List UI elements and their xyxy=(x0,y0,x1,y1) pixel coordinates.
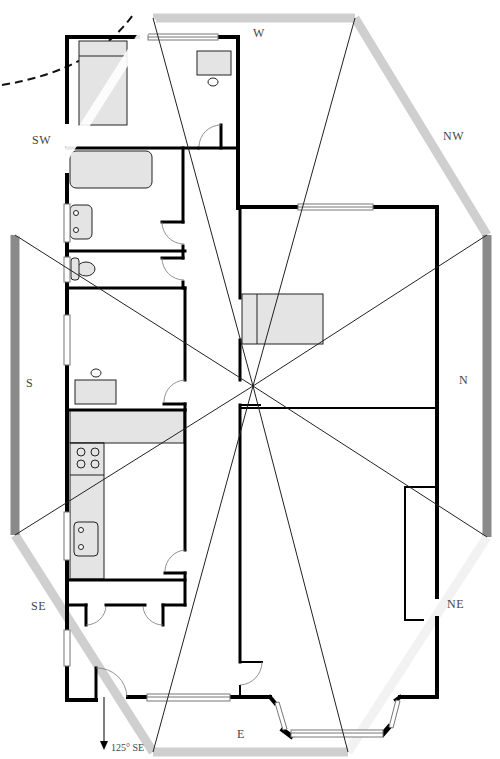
sector-line xyxy=(15,235,253,386)
door-swing xyxy=(162,258,184,280)
chair xyxy=(208,78,218,86)
arrow-down-icon xyxy=(100,741,108,750)
bagua-edge-ne xyxy=(348,537,487,752)
window-bathroom xyxy=(64,204,70,242)
orientation-arrow xyxy=(100,697,108,750)
door-swing xyxy=(162,222,184,244)
direction-label-ne: NE xyxy=(447,597,464,612)
hob-ring xyxy=(77,448,85,456)
orientation-note: 125° SE xyxy=(111,742,144,753)
toilet xyxy=(77,262,95,276)
bed-single xyxy=(79,41,127,125)
sink-tap xyxy=(79,545,84,550)
chair-small xyxy=(91,369,101,377)
toilet-cistern xyxy=(71,258,79,280)
washbasin-bathroom xyxy=(70,205,92,239)
desk xyxy=(197,51,231,75)
bagua-edge-nw xyxy=(355,18,487,235)
hob-ring xyxy=(91,448,99,456)
door-swing xyxy=(164,380,185,402)
door-swing xyxy=(143,606,163,625)
kitchen-counter-top xyxy=(70,410,184,443)
direction-label-e: E xyxy=(237,727,245,742)
door-swing xyxy=(86,606,106,625)
bathtub xyxy=(70,151,152,188)
direction-label-nw: NW xyxy=(443,129,464,144)
hob-ring xyxy=(91,460,99,468)
sector-line xyxy=(15,386,253,535)
kitchen-sink xyxy=(74,522,98,556)
window-study xyxy=(64,315,70,365)
sink-tap xyxy=(79,528,84,533)
hob-ring xyxy=(77,460,85,468)
direction-label-n: N xyxy=(459,373,468,388)
direction-label-w: W xyxy=(253,26,265,41)
window-kitchen xyxy=(64,512,70,560)
basin-tap xyxy=(74,228,79,233)
door-swing xyxy=(165,550,185,571)
direction-label-sw: SW xyxy=(32,133,51,148)
double-bed xyxy=(242,294,323,344)
basin-tap xyxy=(74,211,79,216)
door-swing xyxy=(240,662,262,685)
direction-label-s: S xyxy=(26,376,33,391)
desk-small xyxy=(75,380,116,404)
window-entry xyxy=(64,630,70,666)
fixtures xyxy=(70,41,323,579)
direction-label-se: SE xyxy=(31,599,46,614)
door-swing xyxy=(199,125,221,147)
floor-plan-diagram xyxy=(0,0,500,759)
